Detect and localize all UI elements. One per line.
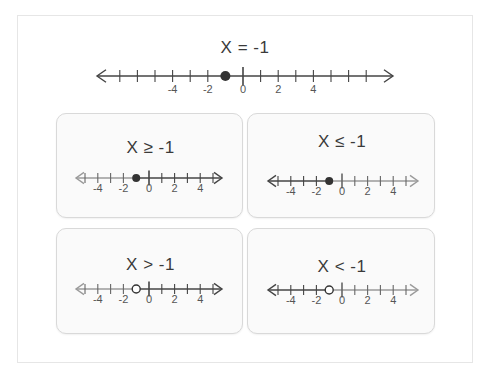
number-line: -4-2024 — [76, 171, 222, 195]
tick-label: 4 — [197, 293, 203, 305]
tick-label: 0 — [146, 293, 152, 305]
tick-label: -4 — [286, 185, 296, 197]
open-point — [325, 286, 333, 294]
tick-label: 2 — [172, 293, 178, 305]
tick-label: 2 — [365, 294, 371, 306]
tick-label: -4 — [286, 294, 296, 306]
tick-label: -2 — [312, 185, 322, 197]
number-line: -4-2024 — [268, 174, 418, 198]
card-number-lines: -4-2024-4-2024-4-2024-4-2024 — [0, 0, 491, 377]
tick-label: 2 — [365, 185, 371, 197]
closed-point — [132, 174, 140, 182]
tick-label: 0 — [339, 185, 345, 197]
tick-label: 2 — [172, 182, 178, 194]
tick-label: -4 — [93, 293, 103, 305]
tick-label: 0 — [339, 294, 345, 306]
tick-label: -2 — [119, 182, 129, 194]
tick-label: -2 — [312, 294, 322, 306]
tick-label: -4 — [93, 182, 103, 194]
number-line: -4-2024 — [76, 282, 222, 306]
closed-point — [325, 177, 333, 185]
open-point — [132, 285, 140, 293]
tick-label: 4 — [390, 185, 396, 197]
tick-label: -2 — [119, 293, 129, 305]
number-line: -4-2024 — [268, 283, 418, 307]
tick-label: 4 — [197, 182, 203, 194]
tick-label: 0 — [146, 182, 152, 194]
tick-label: 4 — [390, 294, 396, 306]
